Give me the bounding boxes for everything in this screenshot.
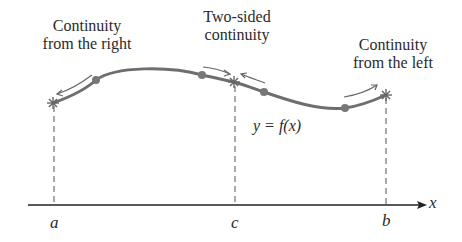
- star-marker-c-icon: [228, 76, 240, 88]
- label-continuity-right: Continuity from the right: [22, 17, 152, 53]
- label-continuity-left: Continuity from the left: [332, 36, 454, 72]
- arrow-from-left-icon: [344, 85, 377, 97]
- point-b-label: b: [382, 212, 391, 230]
- arrow-two-sided-right-icon: [241, 73, 265, 83]
- curve-point: [198, 71, 206, 79]
- point-a-label: a: [50, 214, 59, 232]
- x-axis-label: x: [429, 194, 437, 212]
- curve-point: [92, 76, 100, 84]
- label-continuity-right-line2: from the right: [22, 35, 152, 53]
- label-two-sided-line1: Two-sided: [187, 8, 287, 26]
- label-continuity-left-line1: Continuity: [332, 36, 454, 54]
- label-continuity-right-line1: Continuity: [22, 17, 152, 35]
- curve-point: [341, 104, 349, 112]
- label-two-sided-line2: continuity: [187, 26, 287, 44]
- function-curve: [53, 69, 386, 109]
- label-two-sided: Two-sided continuity: [187, 8, 287, 44]
- curve-point: [260, 88, 268, 96]
- star-marker-a-icon: [47, 97, 59, 109]
- star-marker-b-icon: [380, 89, 392, 101]
- function-label: y = f(x): [253, 117, 301, 135]
- point-c-label: c: [231, 214, 239, 232]
- label-continuity-left-line2: from the left: [332, 54, 454, 72]
